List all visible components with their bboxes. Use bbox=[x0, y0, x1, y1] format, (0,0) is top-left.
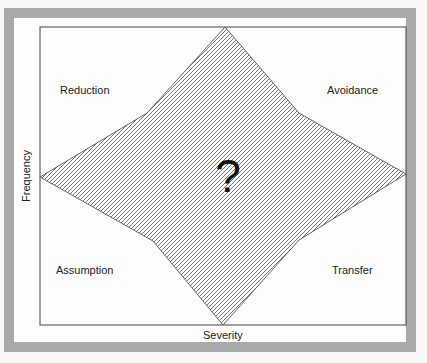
quadrant-label-transfer: Transfer bbox=[332, 264, 373, 276]
x-axis-label: Severity bbox=[203, 329, 243, 341]
y-axis-label: Frequency bbox=[20, 150, 32, 202]
quadrant-label-assumption: Assumption bbox=[56, 264, 113, 276]
diagram-canvas bbox=[0, 0, 427, 363]
quadrant-label-avoidance: Avoidance bbox=[327, 84, 378, 96]
question-mark-icon: ? bbox=[215, 153, 241, 199]
quadrant-label-reduction: Reduction bbox=[60, 84, 110, 96]
